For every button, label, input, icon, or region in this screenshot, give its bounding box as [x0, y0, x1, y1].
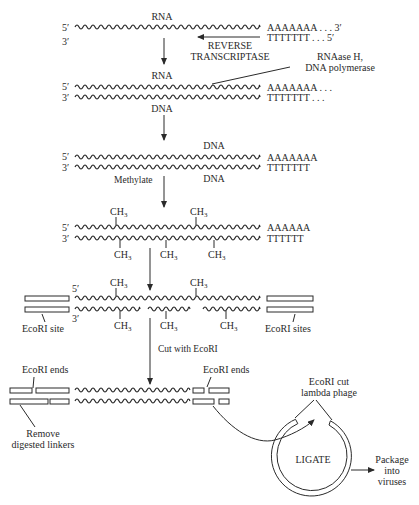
step-2-hybrid: RNAase H, DNA polymerase RNA 5′ 3′ AAAAA… — [62, 51, 375, 140]
phage-label: EcoRI cut — [309, 376, 349, 387]
dna-strand — [75, 165, 260, 169]
ecori-linker — [267, 296, 313, 301]
methyl-group: CH3 — [208, 240, 226, 262]
five-prime-label: 5′ — [72, 283, 79, 294]
step-3-ds-dna: DNA 5′ 3′ AAAAAAA TTTTTTT DNA Methylate — [62, 140, 318, 207]
linker-fragment — [193, 388, 204, 393]
step-1-mrna: RNA 5′ 3′ AAAAAAA . . . 3′ TTTTTTT . . .… — [62, 11, 342, 64]
package-label: into — [384, 465, 400, 476]
linker-fragment — [36, 388, 69, 393]
dna-strand — [203, 307, 260, 311]
enzyme-label: TRANSCRIPTASE — [190, 51, 269, 62]
package-label: viruses — [378, 476, 406, 487]
five-prime-label: 5′ — [62, 222, 69, 233]
dna-strand — [75, 307, 140, 311]
ligate-label: LIGATE — [296, 454, 331, 465]
remove-label: digested linkers — [11, 439, 74, 450]
package-label: Package — [375, 454, 409, 465]
methyl-group: CH3 — [160, 311, 178, 333]
methyl-group: CH3 — [190, 277, 208, 296]
methyl-label: CH3 — [114, 249, 132, 262]
methyl-group: CH3 — [114, 240, 132, 262]
dna-strand — [75, 95, 260, 99]
linker-fragment — [10, 388, 32, 393]
poly-t-tail: TTTTTTT . . . — [267, 92, 325, 103]
ecori-sites-label: EcoRI sites — [265, 323, 311, 334]
methyl-label: CH3 — [190, 277, 208, 290]
poly-t-tail: TTTTTT — [267, 233, 304, 244]
enzyme-label: RNAase H, — [317, 51, 363, 62]
three-prime-label: 3′ — [62, 36, 69, 47]
five-prime-label: 5′ — [62, 151, 69, 162]
remove-label: Remove — [26, 428, 60, 439]
methyl-label: CH3 — [114, 320, 132, 333]
five-prime-label: 5′ — [62, 81, 69, 92]
phage-end — [329, 421, 330, 425]
ecori-linker — [267, 307, 313, 312]
linker-fragment — [219, 399, 229, 404]
methylate-label: Methylate — [114, 175, 153, 185]
three-prime-label: 3′ — [72, 313, 79, 324]
methyl-label: CH3 — [190, 206, 208, 219]
methyl-group: CH3 — [190, 206, 208, 225]
cdna-strand — [75, 399, 190, 403]
methyl-group: CH3 — [160, 240, 178, 262]
methyl-group: CH3 — [220, 311, 238, 333]
methyl-group: CH3 — [110, 277, 128, 296]
methyl-group: CH3 — [110, 206, 128, 225]
pointer-line — [42, 314, 45, 322]
step-6-cut: EcoRI ends EcoRI ends Remove digested li… — [10, 364, 409, 496]
dna-strand — [75, 236, 260, 240]
dna-label: DNA — [151, 103, 173, 114]
linker-fragment — [193, 399, 214, 404]
rna-strand — [75, 25, 260, 29]
linker-fragment — [209, 388, 229, 393]
ecori-ends-label: EcoRI ends — [203, 364, 249, 375]
methyl-group: CH3 — [114, 311, 132, 333]
linker-fragment — [50, 399, 69, 404]
dna-strand — [148, 307, 190, 311]
pointer-line — [295, 400, 314, 418]
methyl-label: CH3 — [110, 206, 128, 219]
enzyme-label: REVERSE — [208, 40, 252, 51]
ecori-ends-label: EcoRI ends — [22, 364, 68, 375]
poly-t-tail: TTTTTTT — [267, 162, 310, 173]
rna-label: RNA — [151, 70, 173, 81]
poly-a-tail: AAAAAA — [267, 222, 311, 233]
poly-t-primer: TTTTTTT . . . 5′ — [267, 32, 334, 43]
pointer-line — [316, 400, 332, 420]
pointer-line — [207, 377, 211, 387]
rna-label: RNA — [151, 11, 173, 22]
three-prime-label: 3′ — [62, 92, 69, 103]
ecori-site-label: EcoRI site — [22, 323, 64, 334]
methyl-label: CH3 — [160, 249, 178, 262]
ecori-linker — [25, 296, 69, 301]
ecori-linker — [25, 307, 69, 312]
five-prime-label: 5′ — [62, 22, 69, 33]
rna-strand — [75, 85, 260, 89]
dna-strand — [75, 225, 260, 229]
insert-arrow — [213, 406, 314, 441]
phage-end — [296, 419, 298, 423]
methyl-label: CH3 — [160, 320, 178, 333]
dna-strand — [75, 155, 260, 159]
methyl-label: CH3 — [208, 249, 226, 262]
cdna-cloning-diagram: RNA 5′ 3′ AAAAAAA . . . 3′ TTTTTTT . . .… — [0, 0, 419, 505]
three-prime-label: 3′ — [62, 233, 69, 244]
step-4-methylated: 5′ 3′ AAAAAA TTTTTT CH3CH3CH3CH3CH3 — [62, 206, 311, 290]
enzyme-label: DNA polymerase — [305, 62, 375, 73]
cut-label: Cut with EcoRI — [158, 344, 218, 354]
methyl-label: CH3 — [110, 277, 128, 290]
phage-label: lambda phage — [301, 387, 357, 398]
methyl-label: CH3 — [220, 320, 238, 333]
dna-label: DNA — [203, 173, 225, 184]
cdna-strand — [75, 388, 190, 392]
pointer-line — [33, 377, 34, 388]
linker-fragment — [10, 399, 48, 404]
pointer-line — [20, 405, 35, 427]
dna-label: DNA — [203, 140, 225, 151]
dna-strand — [75, 296, 260, 300]
three-prime-label: 3′ — [62, 162, 69, 173]
pointer-line — [293, 314, 295, 322]
